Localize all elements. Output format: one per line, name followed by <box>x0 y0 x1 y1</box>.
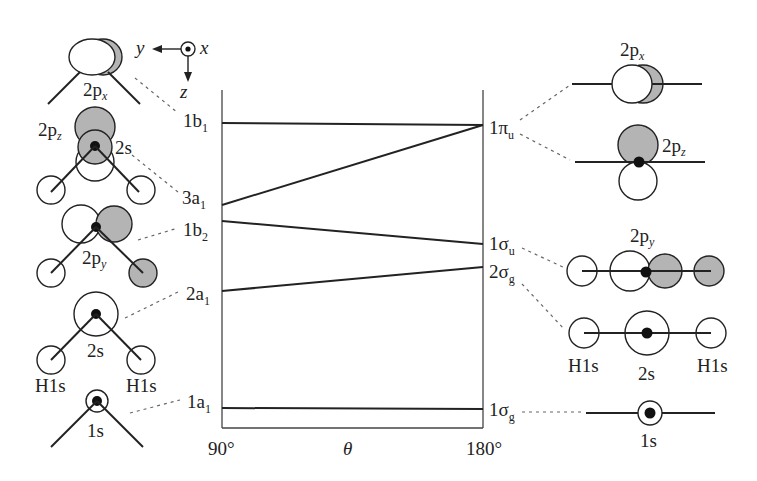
svg-text:H1s: H1s <box>568 355 599 376</box>
line-2a1-2sigmag <box>222 267 483 291</box>
line-1b1-1piu <box>222 123 483 125</box>
coordinate-axes-icon: y x z <box>134 37 209 102</box>
diagram-frame <box>222 90 483 428</box>
svg-text:x: x <box>199 37 209 58</box>
svg-text:y: y <box>134 37 145 58</box>
level-label-2sigmag: 2σg <box>489 261 515 286</box>
line-1b2-1sigmau <box>222 221 483 244</box>
orbital-right-2py: 2py <box>567 225 724 291</box>
orbital-left-3a1: 2pz 2s <box>37 107 155 204</box>
level-label-1piu: 1πu <box>489 117 514 142</box>
level-label-1sigmag: 1σg <box>489 399 515 424</box>
svg-text:2s: 2s <box>87 340 104 361</box>
orbital-right-2pz: 2pz <box>575 125 705 200</box>
orbital-left-1b1: 2px <box>48 39 140 104</box>
orbital-right-2px: 2px <box>572 39 702 103</box>
svg-text:H1s: H1s <box>126 375 157 396</box>
walsh-diagram: 90° θ 180° 1b1 3a1 1b2 2a1 1a1 1πu 1σu 2… <box>0 0 757 481</box>
left-level-labels: 1b1 3a1 1b2 2a1 1a1 <box>182 110 211 416</box>
correlation-lines <box>222 123 483 409</box>
line-1a1-1sigmag <box>222 408 483 409</box>
axis-right-label: 180° <box>466 438 502 459</box>
svg-text:z: z <box>179 81 188 102</box>
svg-text:2s: 2s <box>115 137 132 158</box>
svg-text:2py: 2py <box>630 225 655 249</box>
svg-text:1s: 1s <box>87 420 104 441</box>
svg-text:2pz: 2pz <box>662 135 686 159</box>
svg-text:2px: 2px <box>620 39 645 63</box>
svg-text:2s: 2s <box>638 363 655 384</box>
orbital-right-1s: 1s <box>586 401 715 451</box>
level-label-2a1: 2a1 <box>186 283 210 308</box>
level-label-1a1: 1a1 <box>187 391 211 416</box>
line-3a1-1piu <box>222 125 483 205</box>
level-label-1b2: 1b2 <box>183 219 208 244</box>
orbital-left-1b2: 2py <box>37 205 157 287</box>
level-label-1b1: 1b1 <box>183 110 208 135</box>
svg-text:H1s: H1s <box>697 355 728 376</box>
svg-text:1s: 1s <box>640 430 657 451</box>
right-level-labels: 1πu 1σu 2σg 1σg <box>489 117 515 424</box>
orbital-left-1a1: 1s <box>51 390 143 447</box>
axis-theta-label: θ <box>343 438 352 459</box>
orbital-left-2a1: 2s H1s H1s <box>35 292 157 396</box>
level-label-3a1: 3a1 <box>182 187 206 212</box>
axis-left-label: 90° <box>208 438 235 459</box>
svg-text:H1s: H1s <box>35 375 66 396</box>
svg-text:2py: 2py <box>82 247 107 271</box>
level-label-1sigmau: 1σu <box>489 233 515 258</box>
orbital-right-2s: H1s 2s H1s <box>568 311 728 384</box>
svg-text:2pz: 2pz <box>38 119 62 143</box>
svg-text:2px: 2px <box>83 79 108 103</box>
